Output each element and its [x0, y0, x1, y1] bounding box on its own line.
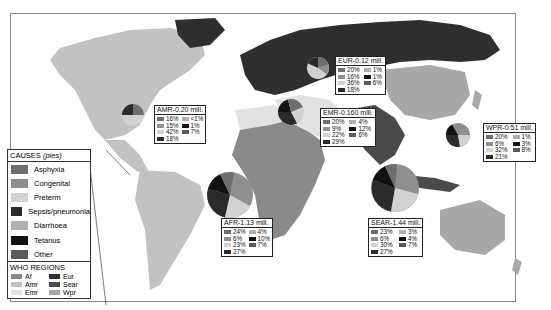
stat-title: AFR-1.13 mill.: [222, 219, 272, 228]
region-australia: [440, 200, 505, 255]
region-item-amr: Amr: [11, 281, 49, 288]
region-item-wpr: Wpr: [49, 289, 87, 296]
stat-title: EMR-0.160 mill.: [321, 109, 375, 118]
legend-item-other: Other: [8, 247, 90, 261]
legend-item-asphyxia: Asphyxia: [8, 162, 90, 176]
stat-box-sear: SEAR-1.44 mill. 23% 3% 6% 4% 30% 7% 27%: [368, 218, 423, 257]
stat-title: AMR-0.20 mill.: [155, 106, 205, 115]
region-item-sear: Sear: [49, 281, 87, 288]
causes-legend-title: CAUSES (pies): [8, 150, 90, 162]
stat-box-emr: EMR-0.160 mill. 20% 4% 9% 12% 22% 6% 29%: [320, 108, 376, 147]
legend-item-congenital: Congenital: [8, 176, 90, 190]
regions-legend: WHO REGIONS Af Eur Amr Sear Emr Wpr: [7, 261, 91, 299]
stat-box-afr: AFR-1.13 mill. 24% 4% 6% 10% 23% 7% 27%: [221, 218, 273, 257]
stat-box-amr: AMR-0.20 mill. 16% <1% 15% 1% 42% 7% 18%: [154, 105, 206, 144]
region-japan: [472, 90, 482, 110]
legend-item-preterm: Preterm: [8, 190, 90, 204]
pie-sear: [371, 164, 419, 212]
region-wpr: [380, 65, 470, 120]
pie-afr: [207, 172, 253, 218]
stat-box-eur: EUR-0.12 mill. 20% 1% 16% 1% 36% 6% 18%: [335, 56, 386, 95]
stat-box-wpr: WPR-0.51 mill. 20% 1% 6% 3% 32% 8% 21%: [483, 123, 536, 162]
pie-amr: [122, 104, 144, 126]
pie-wpr: [446, 123, 470, 147]
region-south-america: [135, 170, 205, 290]
legend-item-diarrhoea: Diarrhoea: [8, 219, 90, 233]
legend-item-sepsis: Sepsis/pneumonia: [8, 205, 90, 219]
region-new-zealand: [512, 258, 522, 275]
region-item-emr: Emr: [11, 289, 49, 296]
regions-legend-title: WHO REGIONS: [8, 262, 90, 273]
stat-title: SEAR-1.44 mill.: [369, 219, 422, 228]
pie-emr: [278, 99, 304, 125]
pie-eur: [307, 57, 329, 79]
region-item-eur: Eur: [49, 273, 87, 280]
legend: CAUSES (pies) Asphyxia Congenital Preter…: [7, 149, 107, 304]
stat-title: EUR-0.12 mill.: [336, 57, 385, 66]
causes-legend: CAUSES (pies) Asphyxia Congenital Preter…: [7, 149, 91, 262]
region-item-af: Af: [11, 273, 49, 280]
legend-item-tetanus: Tetanus: [8, 233, 90, 247]
stat-title: WPR-0.51 mill.: [484, 124, 535, 133]
